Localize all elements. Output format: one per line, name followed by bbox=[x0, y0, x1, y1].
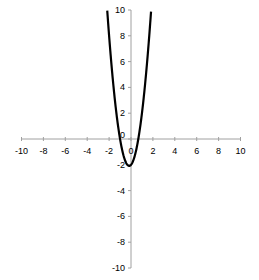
x-tick-label: 4 bbox=[172, 146, 177, 156]
x-tick-label: 2 bbox=[150, 146, 155, 156]
axes bbox=[22, 10, 241, 268]
x-tick-label: 8 bbox=[216, 146, 221, 156]
y-tick-label: 4 bbox=[120, 82, 125, 92]
x-tick-label: -8 bbox=[39, 146, 47, 156]
y-tick-label: 10 bbox=[115, 5, 125, 15]
y-tick-label: -8 bbox=[117, 237, 125, 247]
y-tick-label: 6 bbox=[120, 57, 125, 67]
y-tick-label: -10 bbox=[112, 263, 125, 273]
x-tick-label: -4 bbox=[83, 146, 91, 156]
y-tick-label: -2 bbox=[117, 160, 125, 170]
x-tick-label: -10 bbox=[15, 146, 28, 156]
parabola-curve bbox=[107, 11, 151, 166]
y-tick-label: -6 bbox=[117, 211, 125, 221]
x-tick-label: 0 bbox=[128, 146, 133, 156]
x-tick-label: -6 bbox=[61, 146, 69, 156]
x-tick-label: -2 bbox=[105, 146, 113, 156]
x-tick-label: 10 bbox=[235, 146, 245, 156]
y-tick-label: 2 bbox=[120, 108, 125, 118]
y-tick-label: 8 bbox=[120, 31, 125, 41]
x-tick-label: 6 bbox=[194, 146, 199, 156]
y-tick-label: -4 bbox=[117, 186, 125, 196]
parabola-chart: -10-8-6-4-20246810-10-8-6-4-22468100 bbox=[0, 0, 259, 280]
